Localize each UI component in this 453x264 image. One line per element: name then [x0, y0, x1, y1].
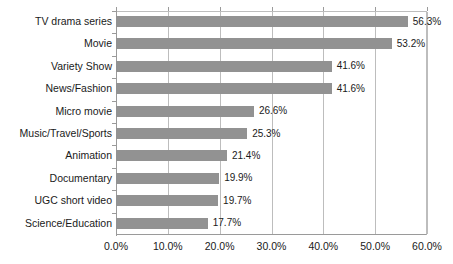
bar — [116, 150, 227, 161]
category-axis-tick — [112, 123, 116, 124]
gridline-60.0 — [427, 12, 428, 234]
category-label: UGC short video — [4, 194, 112, 206]
bar — [116, 195, 218, 206]
bar — [116, 128, 247, 139]
category-axis-tick — [112, 11, 116, 12]
bar-value-label: 19.9% — [224, 172, 252, 183]
category-label: News/Fashion — [4, 82, 112, 94]
bar-value-label: 19.7% — [223, 195, 251, 206]
category-axis-tick — [112, 101, 116, 102]
bar — [116, 83, 332, 94]
category-label: Animation — [4, 149, 112, 161]
bar-value-label: 53.2% — [397, 38, 425, 49]
x-axis-tick — [116, 7, 117, 11]
category-label: Micro movie — [4, 105, 112, 117]
category-axis-labels: TV drama seriesMovieVariety ShowNews/Fas… — [0, 0, 112, 264]
category-axis-tick — [112, 56, 116, 57]
bar-value-label: 26.6% — [259, 105, 287, 116]
x-axis-tick — [168, 7, 169, 11]
category-label: TV drama series — [4, 15, 112, 27]
category-label: Movie — [4, 37, 112, 49]
bar — [116, 173, 219, 184]
bar-value-label: 56.3% — [413, 16, 441, 27]
category-axis-tick — [112, 213, 116, 214]
category-axis-tick — [112, 168, 116, 169]
x-axis-tick — [375, 7, 376, 11]
x-axis-tick — [220, 7, 221, 11]
category-label: Science/Education — [4, 217, 112, 229]
category-axis-tick — [112, 145, 116, 146]
horizontal-bar-chart: TV drama seriesMovieVariety ShowNews/Fas… — [0, 0, 453, 264]
bar — [116, 38, 392, 49]
x-axis-tick — [427, 7, 428, 11]
x-axis-tick — [323, 7, 324, 11]
category-label: Documentary — [4, 172, 112, 184]
category-label: Music/Travel/Sports — [4, 127, 112, 139]
category-label: Variety Show — [4, 60, 112, 72]
bar — [116, 218, 208, 229]
category-axis-tick — [112, 33, 116, 34]
category-axis-tick — [112, 190, 116, 191]
category-axis-tick — [112, 78, 116, 79]
bar-value-label: 21.4% — [232, 150, 260, 161]
x-axis-tick-label: 60.0% — [397, 240, 453, 252]
bar-value-label: 41.6% — [337, 83, 365, 94]
x-axis-tick — [272, 7, 273, 11]
bar — [116, 16, 408, 27]
bar-value-label: 25.3% — [252, 128, 280, 139]
bar-value-label: 17.7% — [213, 217, 241, 228]
bar — [116, 61, 332, 72]
bar-value-label: 41.6% — [337, 60, 365, 71]
bar — [116, 106, 254, 117]
